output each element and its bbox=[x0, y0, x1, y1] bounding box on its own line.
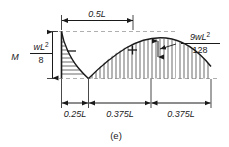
quantity-symbol-label: M bbox=[11, 52, 19, 62]
sign-symbols bbox=[67, 46, 137, 55]
bending-moment-figure: M wL2 8 9wL2 128 0.5L 0.25L 0.375L 0.375… bbox=[0, 0, 229, 147]
left-moment-dimension bbox=[47, 32, 58, 79]
right-moment-label: 9wL2 128 bbox=[181, 31, 220, 55]
moment-diagram-svg: M wL2 8 9wL2 128 0.5L 0.25L 0.375L 0.375… bbox=[0, 0, 229, 147]
bottom-dimension-label-0: 0.25L bbox=[64, 109, 87, 119]
right-moment-numerator: 9wL2 bbox=[190, 31, 211, 42]
right-moment-denominator: 128 bbox=[192, 45, 207, 55]
bottom-dimension-label-2: 0.375L bbox=[167, 109, 195, 119]
left-moment-label: wL2 8 bbox=[30, 41, 52, 65]
left-moment-numerator: wL2 bbox=[33, 41, 49, 52]
bottom-extension-lines bbox=[62, 79, 212, 108]
left-moment-denominator: 8 bbox=[38, 55, 43, 65]
top-dimension-label: 0.5L bbox=[88, 9, 106, 19]
positive-region-hatch bbox=[92, 36, 176, 80]
negative-moment-curve bbox=[62, 32, 89, 79]
bottom-dimension-label-1: 0.375L bbox=[106, 109, 134, 119]
peak-moment-callout bbox=[158, 41, 176, 57]
figure-caption: (e) bbox=[110, 130, 122, 141]
